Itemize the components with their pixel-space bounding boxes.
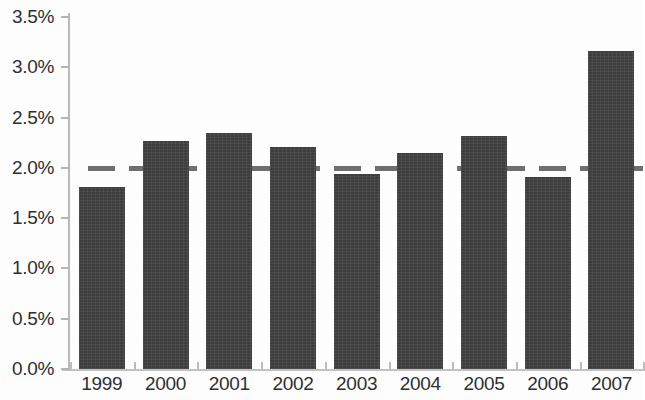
y-axis-tick-mark	[61, 267, 70, 269]
bar-2007	[588, 51, 634, 369]
y-axis-tick-mark	[61, 167, 70, 169]
y-axis-tick-mark	[61, 16, 70, 18]
y-axis-tick-mark	[61, 117, 70, 119]
bar-2001	[206, 133, 252, 369]
x-axis-tick-mark	[261, 362, 263, 371]
bar-2006	[525, 177, 571, 369]
x-axis-tick-mark	[325, 362, 327, 371]
x-axis-tick-mark	[197, 362, 199, 371]
x-axis-tick-mark	[389, 362, 391, 371]
y-axis-tick-mark	[61, 368, 70, 370]
bar-1999	[79, 187, 125, 369]
bar-2004	[397, 153, 443, 369]
bar-2005	[461, 136, 507, 369]
x-axis-tick-mark	[70, 362, 72, 371]
x-axis-tick-mark	[134, 362, 136, 371]
bar-2000	[143, 141, 189, 369]
x-axis-tick-mark	[580, 362, 582, 371]
y-axis-tick-mark	[61, 318, 70, 320]
x-axis-tick-mark	[452, 362, 454, 371]
bar-2003	[334, 174, 380, 369]
y-axis-tick-mark	[61, 66, 70, 68]
y-axis-tick-mark	[61, 217, 70, 219]
x-axis-tick-mark	[516, 362, 518, 371]
bar-2002	[270, 147, 316, 369]
